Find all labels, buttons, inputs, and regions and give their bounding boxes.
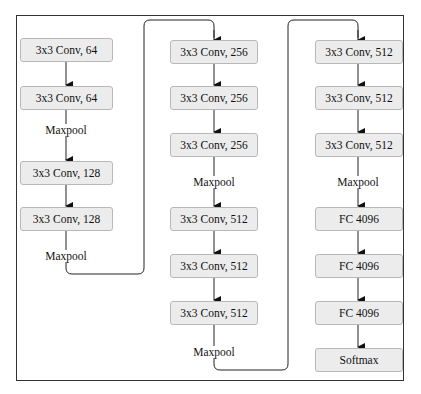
layer-conv512-5: 3x3 Conv, 512 (315, 86, 403, 110)
layer-conv512-4: 3x3 Conv, 512 (315, 40, 403, 64)
maxpool-label: Maxpool (44, 250, 88, 262)
layer-conv256-3: 3x3 Conv, 256 (170, 133, 258, 157)
layer-fc4096-1: FC 4096 (315, 207, 403, 231)
layer-fc4096-2: FC 4096 (315, 254, 403, 278)
layer-conv512-2: 3x3 Conv, 512 (170, 254, 258, 278)
layer-conv512-1: 3x3 Conv, 512 (170, 207, 258, 231)
layer-conv64-1: 3x3 Conv, 64 (20, 38, 113, 62)
layer-softmax: Softmax (315, 348, 403, 372)
layer-conv256-2: 3x3 Conv, 256 (170, 86, 258, 110)
layer-conv256-1: 3x3 Conv, 256 (170, 40, 258, 64)
layer-conv512-3: 3x3 Conv, 512 (170, 301, 258, 325)
vgg-diagram: 3x3 Conv, 64 3x3 Conv, 64 Maxpool 3x3 Co… (0, 0, 421, 394)
layer-conv128-1: 3x3 Conv, 128 (20, 161, 113, 185)
maxpool-label: Maxpool (44, 124, 88, 136)
layer-conv128-2: 3x3 Conv, 128 (20, 207, 113, 231)
layer-conv512-6: 3x3 Conv, 512 (315, 133, 403, 157)
layer-fc4096-3: FC 4096 (315, 301, 403, 325)
maxpool-label: Maxpool (336, 176, 380, 188)
maxpool-label: Maxpool (192, 346, 236, 358)
maxpool-label: Maxpool (192, 176, 236, 188)
layer-conv64-2: 3x3 Conv, 64 (20, 86, 113, 110)
